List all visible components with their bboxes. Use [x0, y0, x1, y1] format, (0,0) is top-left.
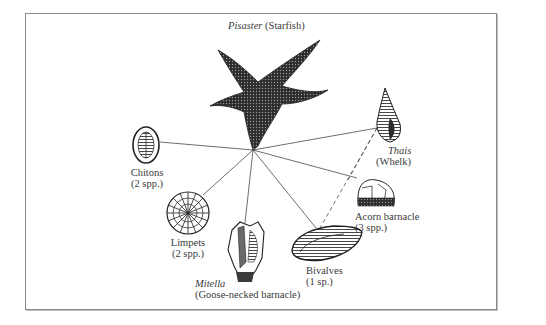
goose-necked-barnacle-icon — [228, 222, 264, 282]
chiton-icon — [133, 127, 159, 163]
link-acorn — [253, 150, 357, 178]
starfish-icon — [210, 40, 328, 150]
acorn-barnacle-icon — [358, 180, 394, 206]
bivalve-icon — [292, 226, 362, 261]
chitons-name: Chitons — [127, 167, 167, 178]
bivalves-name: Bivalves — [306, 265, 343, 276]
chitons-label: Chitons (2 spp.) — [127, 167, 167, 189]
acorn-barnacle-count: (3 spp.) — [355, 222, 419, 233]
acorn-barnacle-name: Acorn barnacle — [355, 211, 419, 222]
mitella-label: Mitella (Goose-necked barnacle) — [195, 278, 300, 300]
chitons-count: (2 spp.) — [127, 178, 167, 189]
bivalves-count: (1 sp.) — [306, 276, 343, 287]
link-thais-acorn — [348, 128, 377, 180]
mitella-genus: Mitella — [195, 278, 225, 289]
limpets-count: (2 spp.) — [166, 248, 210, 259]
whelk-icon — [377, 88, 401, 142]
link-chitons — [160, 142, 253, 150]
whelk-common-name: (Whelk) — [376, 156, 411, 167]
link-limpets — [203, 150, 253, 195]
starfish-common-name: (Starfish) — [265, 20, 305, 31]
limpet-icon — [167, 192, 209, 234]
starfish-genus: Pisaster — [228, 20, 262, 31]
link-thais — [253, 128, 377, 150]
limpets-label: Limpets (2 spp.) — [166, 237, 210, 259]
bivalves-label: Bivalves (1 sp.) — [306, 265, 343, 287]
starfish-label: Pisaster (Starfish) — [228, 20, 305, 31]
whelk-genus: Thais — [388, 145, 411, 156]
link-mitella — [245, 150, 253, 223]
limpets-name: Limpets — [166, 237, 210, 248]
food-web-illustration — [0, 0, 546, 325]
whelk-label: Thais (Whelk) — [376, 145, 411, 167]
acorn-barnacle-label: Acorn barnacle (3 spp.) — [355, 211, 419, 233]
link-bivalves — [253, 150, 316, 228]
mitella-common-name: (Goose-necked barnacle) — [195, 289, 300, 300]
